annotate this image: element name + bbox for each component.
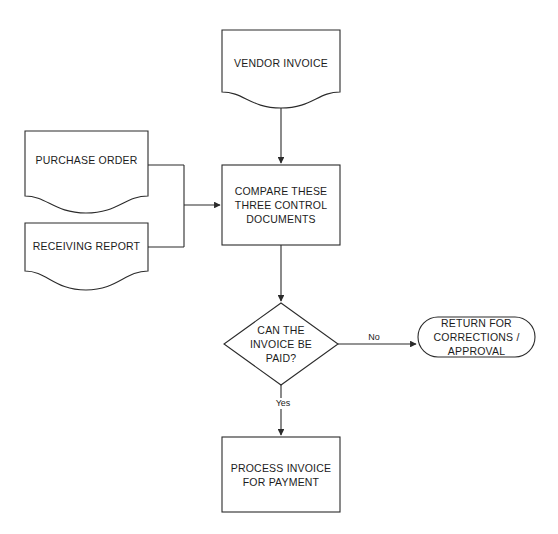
edge-label-yes: Yes [268, 398, 298, 409]
return-corrections-node[interactable] [418, 317, 535, 357]
compare-documents-node[interactable] [222, 165, 340, 245]
flowchart-canvas: VENDOR INVOICE PURCHASE ORDER RECEIVING … [0, 0, 558, 534]
purchase-order-node[interactable] [25, 131, 148, 213]
decision-node[interactable] [224, 303, 338, 385]
process-invoice-node[interactable] [222, 437, 340, 512]
receiving-report-node[interactable] [25, 223, 148, 290]
edge-label-no: No [362, 332, 386, 343]
vendor-invoice-node[interactable] [222, 30, 340, 108]
